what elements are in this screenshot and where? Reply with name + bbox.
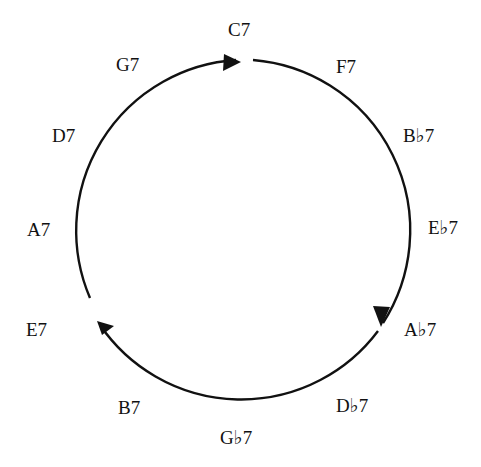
arc-e7-to-c7 (76, 60, 236, 298)
arc-ab7-to-e7 (100, 325, 378, 399)
cycle-of-dominant-sevenths-diagram: C7 F7 B♭7 E♭7 A♭7 D♭7 G♭7 B7 E7 A7 D7 G7 (0, 0, 481, 467)
node-gb7: G♭7 (220, 428, 252, 447)
node-a7: A7 (27, 220, 50, 239)
node-b7: B7 (118, 398, 140, 417)
node-d7: D7 (52, 126, 75, 145)
arc-c7-to-ab7 (253, 60, 410, 323)
node-c7: C7 (228, 20, 250, 39)
node-e7: E7 (26, 320, 47, 339)
circle-svg (0, 0, 481, 467)
node-bb7: B♭7 (403, 126, 434, 145)
node-db7: D♭7 (336, 396, 368, 415)
node-eb7: E♭7 (428, 218, 458, 237)
arrow-to-c7-arrowhead-icon (223, 54, 241, 71)
node-f7: F7 (336, 57, 356, 76)
node-ab7: A♭7 (404, 320, 436, 339)
node-g7: G7 (116, 55, 139, 74)
